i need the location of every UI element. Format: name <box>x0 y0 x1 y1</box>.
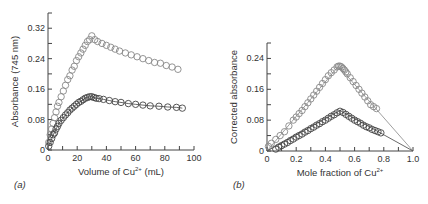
y-tick-label: 0.24 <box>27 54 45 64</box>
x-tick-label: 0.8 <box>378 154 391 164</box>
x-tick-label: 0.6 <box>348 154 361 164</box>
y-tick-label: 0 <box>40 145 45 155</box>
x-tick-label: 0 <box>45 153 50 163</box>
series-line <box>49 97 183 146</box>
x-tick-label: 40 <box>101 153 111 163</box>
data-point <box>65 76 71 82</box>
data-point <box>73 57 79 63</box>
x-tick-label: 20 <box>72 153 82 163</box>
data-point <box>273 136 279 142</box>
y-axis-label: Corrected absorbance <box>228 50 239 144</box>
x-tick-label: 100 <box>186 153 201 163</box>
data-point <box>82 42 88 48</box>
x-tick-label: 0.4 <box>319 154 332 164</box>
panel-label: (a) <box>14 179 26 190</box>
y-tick-label: 0.32 <box>27 23 45 33</box>
x-tick-label: 80 <box>160 153 170 163</box>
data-point <box>75 54 81 60</box>
chart-panel-a: 00.080.160.240.32020406080100Volume of C… <box>9 13 202 190</box>
data-point <box>80 46 86 52</box>
data-point <box>151 59 157 65</box>
x-tick-label: 60 <box>131 153 141 163</box>
chart-panel-b: 00.080.160.2400.20.40.60.81.0Mole fracti… <box>228 43 419 190</box>
y-tick-label: 0.08 <box>27 115 45 125</box>
y-axis-label: Absorbance (745 nm) <box>9 36 20 127</box>
panel-label: (b) <box>233 179 245 190</box>
data-point <box>54 103 60 109</box>
y-tick-label: 0.16 <box>27 84 45 94</box>
x-tick-label: 0 <box>264 154 269 164</box>
x-tick-label: 0.2 <box>290 154 303 164</box>
data-point <box>69 67 75 73</box>
y-tick-label: 0.08 <box>246 115 264 125</box>
data-point <box>163 62 169 68</box>
x-axis-label: Mole fraction of Cu2+ <box>297 167 384 178</box>
y-tick-label: 0.24 <box>246 53 264 63</box>
data-point <box>281 129 287 135</box>
data-point <box>78 50 84 56</box>
figure: 00.080.160.240.32020406080100Volume of C… <box>0 0 428 204</box>
data-point <box>286 123 292 129</box>
x-tick-label: 1.0 <box>407 154 420 164</box>
y-tick-label: 0 <box>259 146 264 156</box>
fit-line <box>267 66 413 151</box>
x-axis-label: Volume of Cu2+ (mL) <box>78 166 164 177</box>
y-tick-label: 0.16 <box>246 84 264 94</box>
data-point <box>175 66 181 72</box>
